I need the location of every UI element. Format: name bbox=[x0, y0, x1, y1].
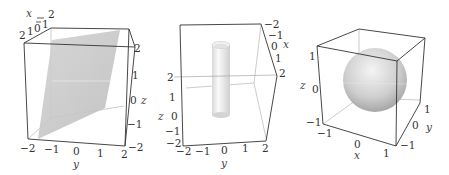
z-axis-label: z bbox=[140, 94, 147, 106]
z-axis-label: z bbox=[299, 79, 306, 91]
y-tick: 1 bbox=[424, 103, 431, 115]
y-tick: −1 bbox=[400, 139, 415, 151]
z-tick: −1 bbox=[127, 118, 142, 130]
z-tick: −2 bbox=[128, 141, 143, 153]
cylinder-plot-canvas: −2 −1 0 x 1 2 2 1 z 0 −1 −2 −2 −1 0 1 2 … bbox=[150, 0, 300, 175]
x-tick: 0 bbox=[271, 40, 278, 52]
z-tick: 2 bbox=[167, 71, 174, 83]
z-tick: 2 bbox=[134, 42, 141, 54]
z-tick: 1 bbox=[169, 91, 176, 103]
y-tick: 1 bbox=[97, 147, 104, 159]
plane-plot-canvas: x 2 1 0 1 2 2 1 0 z −1 −2 −2 −1 0 1 2 y bbox=[0, 0, 150, 175]
x-tick: 2 bbox=[48, 8, 55, 20]
z-tick: 0 bbox=[130, 94, 137, 106]
x-axis: −1 0 x 1 bbox=[317, 127, 390, 161]
x-tick: −1 bbox=[317, 127, 332, 139]
y-tick: 0 bbox=[412, 119, 419, 131]
y-axis-label: y bbox=[220, 157, 228, 169]
z-tick: 1 bbox=[132, 69, 139, 81]
cylinder-surface bbox=[212, 42, 230, 119]
sphere-plot-canvas: 1 z 0 −1 −1 0 x 1 1 0 y −1 bbox=[300, 0, 449, 175]
z-tick: −1 bbox=[165, 125, 180, 137]
plot-cylinder: −2 −1 0 x 1 2 2 1 z 0 −1 −2 −2 −1 0 1 2 … bbox=[150, 0, 300, 175]
z-axis: 2 1 0 z −1 −2 bbox=[127, 42, 147, 153]
y-tick: −2 bbox=[20, 142, 35, 154]
z-axis: 2 1 z 0 −1 −2 bbox=[157, 71, 181, 149]
y-tick: 1 bbox=[242, 142, 249, 154]
y-axis: −2 −1 0 1 2 y bbox=[20, 142, 128, 170]
x-tick: 1 bbox=[275, 52, 282, 64]
y-axis-label: y bbox=[72, 158, 80, 170]
z-tick: 1 bbox=[309, 50, 316, 62]
y-tick: 2 bbox=[262, 142, 269, 154]
x-axis-label: x bbox=[283, 38, 289, 50]
y-tick: 2 bbox=[121, 148, 128, 160]
y-tick: 0 bbox=[73, 145, 80, 157]
x-axis-label: x bbox=[354, 149, 360, 161]
y-tick: 0 bbox=[221, 144, 228, 156]
plot-plane: x 2 1 0 1 2 2 1 0 z −1 −2 −2 −1 0 1 2 y bbox=[0, 0, 150, 175]
x-tick: 1 bbox=[27, 25, 34, 37]
z-tick: 0 bbox=[171, 110, 178, 122]
y-axis: −2 −1 0 1 2 y bbox=[176, 142, 269, 169]
y-axis: 1 0 y −1 bbox=[400, 103, 433, 151]
y-tick: −1 bbox=[44, 143, 59, 155]
x-tick: 2 bbox=[19, 29, 26, 41]
x-axis: −2 −1 0 x 1 2 bbox=[264, 18, 289, 79]
y-tick: −2 bbox=[176, 145, 191, 157]
z-tick: 0 bbox=[312, 83, 319, 95]
plot-sphere: 1 z 0 −1 −1 0 x 1 1 0 y −1 bbox=[300, 0, 449, 175]
y-axis-label: y bbox=[425, 121, 433, 133]
z-axis-label: z bbox=[157, 110, 164, 122]
x-tick: 0 bbox=[34, 22, 41, 34]
x-tick: 2 bbox=[279, 67, 286, 79]
x-tick: 1 bbox=[383, 147, 390, 159]
x-axis-label: x bbox=[26, 7, 32, 19]
y-tick: −1 bbox=[195, 145, 210, 157]
sphere-surface bbox=[343, 48, 407, 112]
